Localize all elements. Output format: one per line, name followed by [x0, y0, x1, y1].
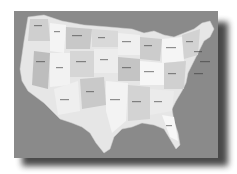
us-map-image	[14, 11, 218, 158]
clipped-heading	[0, 0, 237, 5]
us-map-graphic	[14, 11, 218, 158]
